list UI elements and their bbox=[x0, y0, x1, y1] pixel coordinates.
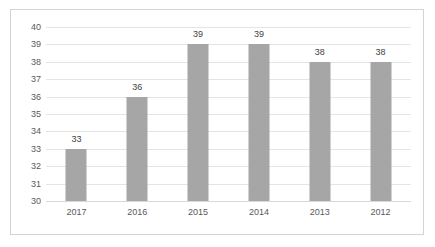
x-axis-tick-label: 2013 bbox=[310, 208, 330, 217]
x-axis-tick-label: 2012 bbox=[371, 208, 391, 217]
bar-value-label: 39 bbox=[193, 30, 203, 39]
bar-group: 392015 bbox=[168, 27, 229, 201]
x-axis-tick-label: 2014 bbox=[249, 208, 269, 217]
y-axis-tick-label: 40 bbox=[31, 23, 41, 32]
bar-group: 382013 bbox=[289, 27, 350, 201]
bar[interactable] bbox=[248, 44, 269, 201]
bar[interactable] bbox=[127, 97, 148, 201]
bar-value-label: 39 bbox=[254, 30, 264, 39]
x-axis-tick-label: 2016 bbox=[127, 208, 147, 217]
y-axis-tick-label: 30 bbox=[31, 197, 41, 206]
x-axis-tick-label: 2017 bbox=[66, 208, 86, 217]
bar-group: 362016 bbox=[107, 27, 168, 201]
bar-value-label: 38 bbox=[376, 48, 386, 57]
bar-value-label: 36 bbox=[132, 83, 142, 92]
y-axis-tick-label: 34 bbox=[31, 127, 41, 136]
bar[interactable] bbox=[309, 62, 330, 201]
bar-group: 332017 bbox=[46, 27, 107, 201]
y-axis-tick-label: 37 bbox=[31, 75, 41, 84]
bar-value-label: 38 bbox=[315, 48, 325, 57]
y-axis-tick-label: 36 bbox=[31, 92, 41, 101]
gridline bbox=[46, 201, 411, 202]
y-axis-tick-label: 31 bbox=[31, 179, 41, 188]
y-axis-tick-label: 39 bbox=[31, 40, 41, 49]
y-axis-tick-label: 32 bbox=[31, 162, 41, 171]
plot-area: 4039383736353433323130332017362016392015… bbox=[46, 27, 411, 201]
y-axis-tick-label: 38 bbox=[31, 57, 41, 66]
chart-frame: 4039383736353433323130332017362016392015… bbox=[10, 9, 424, 235]
y-axis-tick-label: 35 bbox=[31, 110, 41, 119]
y-axis-tick-label: 33 bbox=[31, 144, 41, 153]
bar[interactable] bbox=[66, 149, 87, 201]
bar[interactable] bbox=[370, 62, 391, 201]
bar-value-label: 33 bbox=[71, 135, 81, 144]
bar-group: 392014 bbox=[229, 27, 290, 201]
bar-group: 382012 bbox=[350, 27, 411, 201]
x-axis-tick-label: 2015 bbox=[188, 208, 208, 217]
bar[interactable] bbox=[188, 44, 209, 201]
